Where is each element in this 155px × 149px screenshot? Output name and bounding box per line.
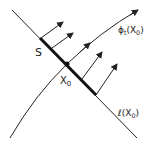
curve-label: ϕt(X0) xyxy=(118,26,144,36)
vector-arrow-icon xyxy=(41,22,63,38)
curve-end-arrow-icon xyxy=(130,10,138,15)
line-label: ℓ(X0) xyxy=(118,109,139,119)
point-x0 xyxy=(65,62,70,67)
curve-direction-arrow-icon xyxy=(80,43,90,52)
segment-label: S xyxy=(35,47,42,58)
vector-arrow-icon xyxy=(52,33,73,48)
point-label: X0 xyxy=(60,76,71,88)
vector-arrow-icon xyxy=(82,52,102,79)
flow-transversal-diagram xyxy=(0,0,155,149)
vector-arrow-icon xyxy=(96,64,117,95)
